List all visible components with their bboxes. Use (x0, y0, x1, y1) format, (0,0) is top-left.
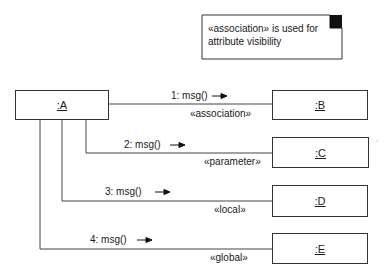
message-3-label: 3: msg() (105, 187, 142, 197)
note-text: «association» is used for attribute visi… (208, 22, 318, 48)
stereotype-parameter: «parameter» (204, 157, 261, 167)
arrow-icon (155, 190, 170, 195)
object-b[interactable]: :B (272, 90, 368, 120)
object-d-label: :D (315, 195, 326, 207)
note-line-2: attribute visibility (208, 35, 318, 48)
object-a-label: :A (57, 99, 67, 111)
message-1-label: 1: msg() (171, 91, 208, 101)
object-d[interactable]: :D (272, 185, 368, 217)
arrow-icon (137, 238, 152, 243)
message-4-label: 4: msg() (90, 235, 127, 245)
arrow-icon (212, 94, 227, 99)
object-e-label: :E (315, 243, 325, 255)
note-line-1: «association» is used for (208, 22, 318, 35)
object-e[interactable]: :E (272, 233, 368, 264)
object-b-label: :B (315, 99, 325, 111)
object-a[interactable]: :A (15, 90, 109, 120)
stereotype-local: «local» (214, 205, 246, 215)
object-c[interactable]: :C (272, 137, 369, 168)
stereotype-global: «global» (210, 253, 248, 263)
arrow-icon (170, 143, 185, 148)
stereotype-association: «association» (190, 109, 251, 119)
object-c-label: :C (315, 147, 326, 159)
message-2-label: 2: msg() (124, 140, 161, 150)
